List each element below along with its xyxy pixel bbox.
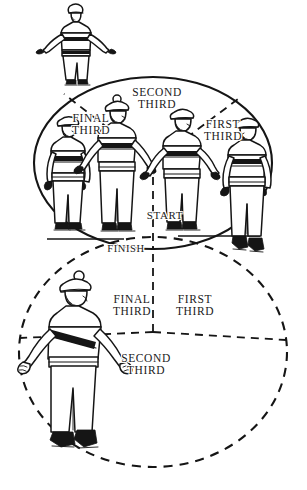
label-first-third-bottom: FIRST THIRD: [172, 293, 218, 317]
skater-top-outside: [36, 4, 116, 85]
label-second-third-top: SECOND THIRD: [126, 86, 188, 110]
label-first-third-top: FIRST THIRD: [197, 118, 249, 142]
label-final-third-bottom: FINAL THIRD: [109, 293, 155, 317]
label-second-third-bottom: SECOND THIRD: [115, 352, 177, 376]
illustration-canvas: .ink { fill:none; stroke:#151515; stroke…: [0, 0, 307, 490]
label-final-third-top: FINAL THIRD: [65, 112, 117, 136]
label-finish: FINISH: [104, 243, 148, 254]
skating-pattern-illustration: .ink { fill:none; stroke:#151515; stroke…: [0, 0, 307, 490]
label-start: START: [143, 210, 187, 222]
